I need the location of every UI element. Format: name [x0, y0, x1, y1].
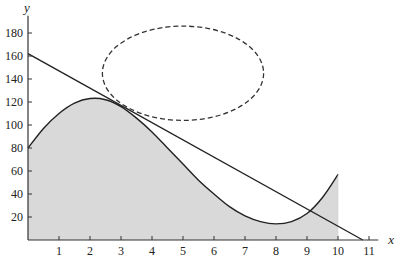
x-tick-label: 7	[242, 244, 248, 258]
y-tick-label: 40	[11, 187, 23, 201]
x-tick-label: 6	[211, 244, 217, 258]
y-tick-label: 20	[11, 210, 23, 224]
y-axis-label: y	[22, 0, 30, 15]
chart: 123456789101120406080100120140160180xy	[0, 0, 400, 265]
x-tick-label: 9	[304, 244, 310, 258]
x-tick-label: 3	[118, 244, 124, 258]
y-tick-label: 140	[5, 72, 23, 86]
x-tick-label: 4	[149, 244, 155, 258]
y-tick-label: 180	[5, 26, 23, 40]
y-tick-label: 120	[5, 95, 23, 109]
x-axis-label: x	[387, 232, 394, 247]
x-tick-label: 2	[87, 244, 93, 258]
x-tick-label: 8	[273, 244, 279, 258]
x-tick-label: 11	[363, 244, 375, 258]
dashed-ellipse	[102, 26, 263, 120]
x-tick-label: 1	[56, 244, 62, 258]
x-tick-label: 5	[180, 244, 186, 258]
y-tick-label: 60	[11, 164, 23, 178]
y-tick-label: 80	[11, 141, 23, 155]
y-tick-label: 160	[5, 49, 23, 63]
y-tick-label: 100	[5, 118, 23, 132]
x-tick-label: 10	[332, 244, 344, 258]
shaded-area	[28, 98, 338, 240]
